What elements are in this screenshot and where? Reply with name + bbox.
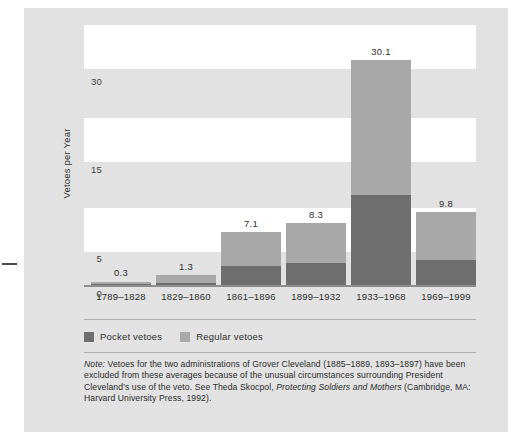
bar-value-label-1933-1968: 30.1 [351,46,411,57]
bar-value-label-1899-1932: 8.3 [286,209,346,220]
bar-1933-1968[interactable] [351,60,411,285]
legend-swatch-regular-icon [180,332,190,342]
x-axis-line [84,285,476,287]
legend-separator-top [84,319,476,320]
legend-separator-bottom [84,352,476,353]
bar-1899-1932[interactable] [286,223,346,285]
bar-segment-pocket [416,260,476,285]
bar-segment-regular [156,275,216,283]
legend-swatch-pocket-icon [84,332,94,342]
y-tick-15: 15 [72,165,102,175]
page-edge-mark [2,263,17,265]
y-tick-5: 5 [72,254,102,264]
bar-value-label-1861-1896: 7.1 [221,218,281,229]
bar-segment-regular [351,60,411,195]
bar-segment-regular [286,223,346,263]
bar-segment-regular [416,212,476,260]
note-book-title: Protecting Soldiers and Mothers [276,382,401,392]
bar-1969-1999[interactable] [416,212,476,285]
bar-value-label-1829-1860: 1.3 [156,261,216,272]
bar-segment-pocket [221,266,281,285]
bar-segment-pocket [286,263,346,285]
note-label: Note: [84,359,105,369]
plot-band-top [84,25,476,69]
x-tick-1969-1999: 1969–1999 [406,291,486,302]
legend-item-pocket-vetoes[interactable]: Pocket vetoes [84,331,162,342]
bar-segment-regular [221,232,281,266]
legend-item-regular-vetoes[interactable]: Regular vetoes [180,331,263,342]
bar-value-label-1789-1828: 0.3 [91,267,151,278]
bar-value-label-1969-1999: 9.8 [416,198,476,209]
bar-segment-pocket [351,195,411,285]
bar-1861-1896[interactable] [221,232,281,285]
bar-1829-1860[interactable] [156,275,216,285]
y-tick-30: 30 [72,77,102,87]
figure-note: Note: Vetoes for the two administrations… [84,359,486,405]
plot-band-second [84,118,476,162]
y-axis-title: Vetoes per Year [61,104,72,224]
legend-label-pocket: Pocket vetoes [100,331,162,342]
chart-legend: Pocket vetoes Regular vetoes [84,331,263,342]
legend-label-regular: Regular vetoes [196,331,263,342]
